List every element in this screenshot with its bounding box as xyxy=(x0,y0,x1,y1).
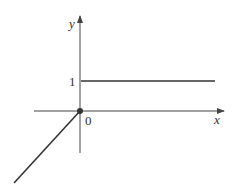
y-axis-label: y xyxy=(67,16,75,31)
origin-label: 0 xyxy=(85,113,92,128)
function-graph: y x 1 0 xyxy=(0,0,237,192)
origin-dot xyxy=(77,108,83,114)
x-axis-label: x xyxy=(213,112,220,127)
y-tick-1: 1 xyxy=(69,74,76,89)
diagonal-line xyxy=(14,111,80,183)
